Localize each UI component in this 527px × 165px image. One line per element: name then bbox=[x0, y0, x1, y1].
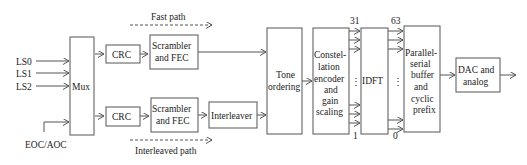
parallel-serial-line4: and bbox=[414, 82, 428, 92]
crc-fast-block: CRC bbox=[106, 45, 140, 63]
parallel-serial-line3: buffer bbox=[411, 70, 435, 80]
mux-block: Mux bbox=[70, 37, 94, 135]
idft-input-top-index: 31 bbox=[350, 16, 360, 26]
tone-ordering-line1: Tone bbox=[276, 70, 295, 80]
parallel-serial-line2: serial bbox=[410, 59, 431, 69]
dac-line2: analog bbox=[463, 77, 489, 87]
scrambler-fast-line1: Scrambler bbox=[152, 41, 192, 51]
input-eoc-aoc: EOC/AOC bbox=[25, 122, 69, 150]
idft-input-bottom-index: 1 bbox=[353, 131, 358, 141]
scrambler-interleaved-line2: and FEC bbox=[156, 116, 190, 126]
crc-fast-label: CRC bbox=[112, 50, 131, 60]
idft-output-bottom-index: 0 bbox=[393, 131, 398, 141]
idft-to-parallel-serial-arrows: 63 ⋮ 0 bbox=[388, 16, 403, 141]
tone-ordering-block: Tone ordering bbox=[267, 28, 302, 134]
constellation-encoder-block: Constel- lation encoder and gain scaling bbox=[313, 28, 349, 134]
crc-interleaved-block: CRC bbox=[106, 107, 140, 126]
constellation-line4: and bbox=[324, 85, 338, 95]
scrambler-fec-fast-block: Scrambler and FEC bbox=[150, 35, 198, 69]
input-ls2: LS2 bbox=[16, 82, 69, 92]
interleaver-label: Interleaver bbox=[211, 111, 253, 121]
parallel-serial-line6: prefix bbox=[413, 105, 436, 115]
ls0-label: LS0 bbox=[16, 57, 32, 67]
parallel-serial-buffer-block: Parallel- serial buffer and cyclic prefi… bbox=[404, 26, 440, 132]
input-ls1: LS1 bbox=[16, 69, 69, 79]
ls2-label: LS2 bbox=[16, 82, 32, 92]
tone-ordering-box bbox=[267, 28, 302, 134]
interleaved-path-label: Interleaved path bbox=[135, 146, 197, 156]
idft-output-top-index: 63 bbox=[391, 16, 401, 26]
scrambler-fec-interleaved-block: Scrambler and FEC bbox=[151, 98, 198, 132]
idft-block: IDFT bbox=[361, 28, 388, 134]
scrambler-interleaved-line1: Scrambler bbox=[152, 104, 192, 114]
fast-path-label: Fast path bbox=[151, 12, 186, 22]
idft-label: IDFT bbox=[362, 76, 383, 86]
interleaver-block: Interleaver bbox=[209, 102, 257, 128]
constellation-line1: Constel- bbox=[314, 50, 346, 60]
constellation-line5: gain bbox=[322, 96, 339, 106]
constellation-to-idft-arrows: 31 ⋮ 1 bbox=[349, 16, 361, 141]
dac-analog-block: DAC and analog bbox=[456, 58, 500, 92]
eoc-aoc-arrow bbox=[44, 122, 69, 132]
crc-interleaved-label: CRC bbox=[112, 112, 131, 122]
eoc-aoc-label: EOC/AOC bbox=[25, 140, 67, 150]
input-ls0: LS0 bbox=[16, 57, 69, 67]
parallel-serial-line1: Parallel- bbox=[405, 48, 437, 58]
idft-input-ellipsis: ⋮ bbox=[351, 77, 361, 87]
ls1-label: LS1 bbox=[16, 69, 32, 79]
dac-line1: DAC and bbox=[458, 65, 494, 75]
mux-label: Mux bbox=[72, 82, 90, 92]
adsl-transmitter-block-diagram: LS0 LS1 LS2 EOC/AOC Mux Fast path CRC Sc… bbox=[0, 0, 527, 165]
parallel-serial-line5: cyclic bbox=[411, 94, 434, 104]
idft-output-ellipsis: ⋮ bbox=[393, 77, 403, 87]
tone-ordering-line2: ordering bbox=[268, 82, 300, 92]
scrambler-fast-line2: and FEC bbox=[155, 53, 189, 63]
constellation-line6: scaling bbox=[316, 107, 343, 117]
constellation-line3: encoder bbox=[314, 74, 345, 84]
constellation-line2: lation bbox=[318, 62, 340, 72]
